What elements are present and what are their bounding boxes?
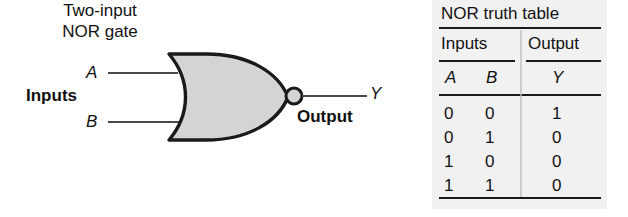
table-row: 1 bbox=[485, 129, 494, 146]
table-row: 1 bbox=[444, 153, 453, 170]
input-label-a: A bbox=[86, 64, 97, 81]
table-row: 0 bbox=[485, 153, 494, 170]
table-row: 0 bbox=[444, 129, 453, 146]
table-row: 1 bbox=[444, 177, 453, 194]
truth-table-column-header-y: Y bbox=[552, 69, 563, 86]
truth-table-column-header-b: B bbox=[486, 69, 497, 86]
inversion-bubble-icon bbox=[286, 88, 302, 104]
table-row: 0 bbox=[552, 177, 561, 194]
figure-caption-line-1: Two-input bbox=[0, 0, 200, 21]
truth-table-header-output: Output bbox=[528, 35, 579, 52]
truth-table-header-inputs: Inputs bbox=[441, 35, 487, 52]
output-group-label: Output bbox=[297, 108, 353, 125]
input-label-b: B bbox=[86, 113, 97, 130]
table-row: 0 bbox=[552, 129, 561, 146]
or-gate-body bbox=[169, 54, 288, 140]
table-row: 0 bbox=[485, 105, 494, 122]
figure-caption-line-2: NOR gate bbox=[0, 21, 200, 42]
nor-gate-figure: A B Inputs Y Output Two-input NOR gate bbox=[0, 0, 430, 217]
inputs-group-label: Inputs bbox=[26, 87, 77, 104]
nor-truth-table: NOR truth table Inputs Output A B Y 0 0 … bbox=[432, 0, 607, 209]
table-row: 0 bbox=[552, 153, 561, 170]
table-row: 0 bbox=[444, 105, 453, 122]
table-row: 1 bbox=[552, 105, 561, 122]
table-row: 1 bbox=[485, 177, 494, 194]
truth-table-rules bbox=[432, 0, 607, 209]
truth-table-title: NOR truth table bbox=[441, 5, 559, 22]
output-label-y: Y bbox=[370, 85, 381, 102]
truth-table-column-header-a: A bbox=[445, 69, 456, 86]
